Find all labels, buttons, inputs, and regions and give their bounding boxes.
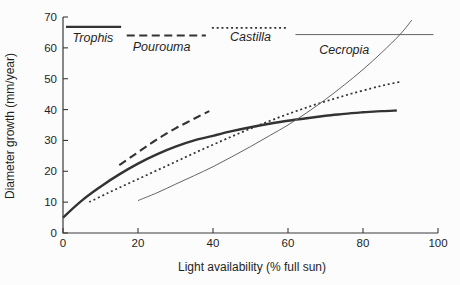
y-tick-label: 50 bbox=[44, 73, 57, 85]
y-tick-label: 70 bbox=[44, 11, 57, 23]
y-tick-label: 10 bbox=[44, 196, 57, 208]
legend-label-trophis: Trophis bbox=[73, 31, 114, 45]
growth-vs-light-figure: 020406080100010203040506070 TrophisPouro… bbox=[0, 0, 460, 285]
y-tick-label: 40 bbox=[44, 104, 57, 116]
x-tick-label: 60 bbox=[282, 237, 295, 249]
x-tick-label: 20 bbox=[132, 237, 145, 249]
legend-layer: TrophisPouroumaCastillaCecropia bbox=[66, 27, 434, 57]
y-tick-label: 30 bbox=[44, 134, 57, 146]
chart-canvas: 020406080100010203040506070 TrophisPouro… bbox=[0, 0, 460, 285]
series-line-castilla bbox=[89, 82, 400, 202]
axes-layer: 020406080100010203040506070 bbox=[44, 11, 447, 249]
y-tick-label: 20 bbox=[44, 165, 57, 177]
x-axis-title: Light availability (% full sun) bbox=[178, 260, 326, 274]
series-line-pourouma bbox=[119, 111, 209, 165]
legend-label-cecropia: Cecropia bbox=[319, 43, 369, 57]
y-tick-label: 0 bbox=[51, 227, 57, 239]
y-tick-label: 60 bbox=[44, 42, 57, 54]
legend-label-castilla: Castilla bbox=[230, 30, 271, 44]
x-tick-label: 40 bbox=[207, 237, 220, 249]
x-tick-label: 80 bbox=[357, 237, 370, 249]
legend-label-pourouma: Pourouma bbox=[133, 40, 191, 54]
axis-lines bbox=[63, 17, 438, 233]
x-tick-label: 0 bbox=[60, 237, 66, 249]
y-axis-title: Diameter growth (mm/year) bbox=[3, 53, 17, 199]
x-tick-label: 100 bbox=[428, 237, 447, 249]
series-line-trophis bbox=[63, 111, 397, 218]
